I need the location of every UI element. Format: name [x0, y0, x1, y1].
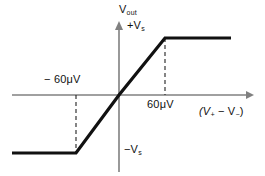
y-axis-title-subscript: out [127, 9, 137, 16]
positive-saturation-label: +Vs [127, 20, 145, 31]
negative-threshold-label: − 60μV [44, 74, 81, 85]
negative-saturation-main: −V [124, 143, 138, 155]
x-axis-title-open: (V [199, 105, 210, 117]
op-amp-transfer-characteristic-figure: Vout +Vs −Vs − 60μV 60μV (V+ − V−) [0, 0, 265, 176]
x-axis-title-close: ) [240, 105, 244, 117]
x-axis-title-operator: − V [215, 105, 236, 117]
y-axis-title: Vout [119, 4, 137, 15]
positive-saturation-subscript: s [141, 25, 145, 32]
x-axis-arrowhead-icon [246, 91, 254, 99]
x-axis [12, 91, 254, 99]
positive-threshold-label: 60μV [147, 99, 174, 110]
x-axis-title-minus-subscript: − [235, 111, 239, 118]
negative-saturation-subscript: s [138, 149, 142, 156]
positive-saturation-main: +V [127, 19, 141, 31]
x-axis-title-plus-subscript: + [210, 111, 214, 118]
y-axis-arrowhead-icon [115, 21, 123, 30]
x-axis-title: (V+ − V−) [199, 106, 244, 117]
negative-saturation-label: −Vs [124, 144, 142, 155]
y-axis-title-main: V [119, 3, 127, 15]
